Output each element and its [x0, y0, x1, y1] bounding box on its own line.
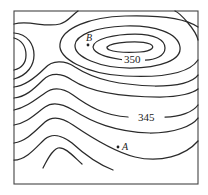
point-a-marker — [117, 146, 120, 149]
point-b-marker — [87, 44, 90, 47]
contour-line — [14, 38, 26, 70]
map-frame — [14, 11, 198, 184]
contour-line-345 — [14, 89, 198, 117]
point-a-label: A — [121, 141, 129, 152]
contour-label-345: 345 — [138, 111, 155, 123]
contour-line — [14, 118, 198, 159]
contour-line-350-inner — [107, 42, 153, 52]
contour-line — [14, 11, 78, 25]
contour-label-350: 350 — [124, 53, 141, 65]
contour-line — [14, 74, 198, 98]
contour-map: 350 345 B A — [0, 0, 208, 195]
contour-line — [14, 104, 198, 133]
contour-line — [14, 33, 34, 79]
contour-line — [43, 148, 82, 168]
contour-line — [60, 16, 198, 77]
point-b-label: B — [86, 32, 92, 43]
